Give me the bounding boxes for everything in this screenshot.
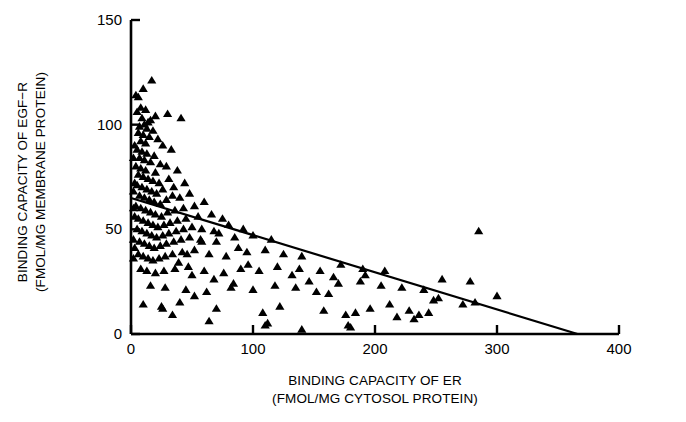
data-point bbox=[168, 191, 177, 199]
y-tick-label: 50 bbox=[82, 221, 122, 236]
data-point bbox=[153, 135, 162, 143]
x-tick-label: 400 bbox=[589, 341, 649, 356]
data-point bbox=[316, 266, 325, 274]
data-point bbox=[165, 218, 174, 226]
data-point bbox=[173, 216, 182, 224]
data-point bbox=[242, 248, 251, 256]
data-point bbox=[168, 250, 177, 258]
data-point bbox=[438, 275, 447, 283]
data-point bbox=[377, 281, 386, 289]
x-axis-title-line1: BINDING CAPACITY OF ER bbox=[131, 372, 619, 390]
y-tick-label-group: 0 50 100 150 bbox=[78, 0, 122, 422]
axes bbox=[131, 20, 619, 334]
data-point bbox=[380, 266, 389, 274]
data-point bbox=[212, 237, 221, 245]
data-point bbox=[151, 269, 160, 277]
data-point bbox=[150, 151, 159, 159]
data-point bbox=[229, 279, 238, 287]
data-point bbox=[176, 235, 185, 243]
data-point bbox=[200, 197, 209, 205]
scatter-plot-figure: 0 50 100 150 0 100 200 300 400 BINDING C… bbox=[0, 0, 686, 422]
x-axis-title-line2: (FMOL/MG CYTOSOL PROTEIN) bbox=[131, 390, 619, 408]
data-point bbox=[466, 277, 475, 285]
data-point bbox=[167, 145, 176, 153]
data-point bbox=[200, 266, 209, 274]
data-point bbox=[351, 308, 360, 316]
data-point bbox=[136, 264, 145, 272]
data-point bbox=[197, 225, 206, 233]
data-point bbox=[180, 179, 189, 187]
y-tick-label: 0 bbox=[82, 326, 122, 341]
data-point bbox=[212, 304, 221, 312]
data-point bbox=[169, 183, 178, 191]
data-point bbox=[312, 287, 321, 295]
data-point bbox=[175, 193, 184, 201]
data-point bbox=[190, 202, 199, 210]
data-point bbox=[324, 290, 333, 298]
data-point bbox=[163, 109, 172, 117]
data-point bbox=[258, 308, 267, 316]
data-point bbox=[434, 294, 443, 302]
data-point bbox=[222, 252, 231, 260]
data-point bbox=[190, 246, 199, 254]
data-point bbox=[161, 252, 170, 260]
data-point bbox=[204, 250, 213, 258]
data-point bbox=[139, 300, 148, 308]
data-point bbox=[234, 243, 243, 251]
x-tick-label: 0 bbox=[101, 341, 161, 356]
x-tick-label: 100 bbox=[223, 341, 283, 356]
data-point bbox=[204, 317, 213, 325]
data-point bbox=[156, 160, 165, 168]
data-point bbox=[305, 277, 314, 285]
data-point bbox=[279, 250, 288, 258]
data-point bbox=[295, 264, 304, 272]
data-point bbox=[273, 262, 282, 270]
y-tick-label: 150 bbox=[82, 12, 122, 27]
data-point bbox=[297, 325, 306, 333]
x-tick-label: 300 bbox=[467, 341, 527, 356]
data-point bbox=[366, 304, 375, 312]
data-point bbox=[202, 287, 211, 295]
data-point bbox=[151, 112, 160, 120]
data-point bbox=[255, 266, 264, 274]
data-point bbox=[385, 300, 394, 308]
data-point bbox=[151, 168, 160, 176]
data-point bbox=[185, 189, 194, 197]
data-point bbox=[168, 310, 177, 318]
data-point bbox=[172, 227, 181, 235]
x-axis-title: BINDING CAPACITY OF ER (FMOL/MG CYTOSOL … bbox=[131, 372, 619, 408]
data-point bbox=[174, 258, 183, 266]
data-point bbox=[187, 223, 196, 231]
data-point bbox=[161, 283, 170, 291]
data-point bbox=[184, 262, 193, 270]
data-point bbox=[261, 246, 270, 254]
data-point bbox=[181, 285, 190, 293]
data-point bbox=[270, 281, 279, 289]
y-axis-title-line2: (FMOL/MG MEMBRANE PROTEIN) bbox=[32, 72, 50, 292]
data-point bbox=[397, 283, 406, 291]
data-point bbox=[392, 313, 401, 321]
data-point bbox=[248, 285, 257, 293]
data-point bbox=[169, 237, 178, 245]
data-point bbox=[244, 260, 253, 268]
data-point bbox=[492, 292, 501, 300]
data-point bbox=[176, 114, 185, 122]
data-point bbox=[424, 308, 433, 316]
y-tick-label: 100 bbox=[82, 117, 122, 132]
data-point bbox=[319, 306, 328, 314]
x-tick-label: 200 bbox=[345, 341, 405, 356]
data-point bbox=[147, 76, 156, 84]
y-axis-title-line1: BINDING CAPACITY OF EGF−R bbox=[14, 82, 32, 282]
figure-caption bbox=[0, 408, 686, 422]
data-point bbox=[139, 84, 148, 92]
data-point bbox=[329, 273, 338, 281]
data-point bbox=[291, 283, 300, 291]
data-point bbox=[219, 269, 228, 277]
data-point bbox=[179, 225, 188, 233]
data-point bbox=[185, 233, 194, 241]
data-point bbox=[175, 298, 184, 306]
data-point bbox=[341, 310, 350, 318]
data-point bbox=[162, 239, 171, 247]
data-point bbox=[209, 275, 218, 283]
data-point bbox=[164, 174, 173, 182]
